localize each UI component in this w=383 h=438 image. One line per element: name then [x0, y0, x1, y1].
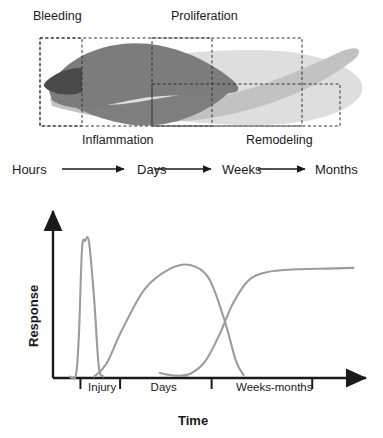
response-chart-svg: [0, 195, 383, 438]
x-tick-label-injury: Injury: [88, 381, 116, 393]
timeline-arrows-svg: [0, 158, 383, 188]
bleeding-band: [44, 68, 82, 95]
x-tick-label-weeks-months: Weeks-months: [236, 381, 312, 393]
timeline-row: Hours Days Weeks Months: [0, 158, 383, 188]
curve-inflammation: [94, 265, 243, 377]
phase-label-bleeding: Bleeding: [33, 10, 82, 23]
curve-proliferation: [175, 268, 353, 376]
figure-container: Bleeding Proliferation Inflammation Remo…: [0, 0, 383, 438]
phase-label-inflammation: Inflammation: [82, 134, 154, 147]
curve-bleeding: [70, 237, 104, 378]
phase-diagram-panel: Bleeding Proliferation Inflammation Remo…: [0, 0, 383, 195]
phase-label-proliferation: Proliferation: [171, 10, 238, 23]
response-curves: [70, 237, 354, 378]
x-axis-title: Time: [178, 413, 208, 428]
phase-label-remodeling: Remodeling: [246, 134, 313, 147]
y-axis-title: Response: [26, 285, 41, 347]
x-tick-label-days: Days: [151, 381, 177, 393]
response-chart-panel: InjuryDaysWeeks-months Response Time: [0, 195, 383, 438]
